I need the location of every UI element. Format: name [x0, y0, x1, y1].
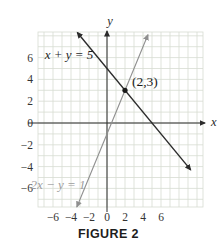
x-tick-label: −2: [83, 211, 95, 223]
y-tick-label: −4: [21, 161, 33, 173]
x-axis-label: x: [210, 115, 217, 129]
y-tick-label: 0: [27, 117, 33, 129]
figure-caption: FIGURE 2: [0, 227, 217, 241]
y-tick-label: 4: [27, 73, 33, 85]
x-tick-label: 6: [158, 211, 164, 223]
line-x-plus-y-equals-5-label: x + y = 5: [44, 47, 94, 62]
y-tick-label: −2: [21, 139, 33, 151]
x-tick-label: 0: [104, 211, 110, 223]
y-tick-label: 2: [27, 95, 33, 107]
x-tick-label: −4: [65, 211, 77, 223]
intersection-point: [122, 88, 127, 93]
line-2x-minus-y-equals-1-label: 2x − y = 1: [30, 177, 85, 192]
x-tick-label: 4: [140, 211, 146, 223]
coordinate-plane: xy6420−2−4−6−6−4−20246x + y = 52x − y = …: [0, 0, 217, 226]
intersection-point-label: (2,3): [132, 74, 158, 89]
y-axis-label: y: [105, 14, 113, 28]
y-tick-label: 6: [27, 52, 33, 64]
figure-2: xy6420−2−4−6−6−4−20246x + y = 52x − y = …: [0, 0, 217, 252]
x-tick-label: −6: [47, 211, 59, 223]
x-tick-label: 2: [122, 211, 128, 223]
